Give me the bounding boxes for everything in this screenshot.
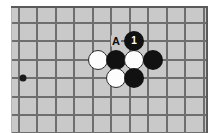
point-label-a: A bbox=[111, 36, 121, 47]
grid-line-horizontal-5 bbox=[11, 114, 208, 116]
grid-line-horizontal-1 bbox=[11, 40, 208, 42]
board-frame-left bbox=[11, 6, 12, 133]
go-diagram-figure: 1A bbox=[0, 0, 220, 133]
board-frame-right bbox=[206, 6, 208, 133]
grid-line-horizontal-4 bbox=[11, 96, 208, 98]
black-stone[interactable] bbox=[106, 50, 126, 70]
stone-move-number: 1 bbox=[131, 36, 137, 46]
grid-line-horizontal-0 bbox=[11, 22, 208, 24]
black-stone[interactable] bbox=[143, 50, 163, 70]
star-point-0 bbox=[20, 75, 27, 82]
white-stone[interactable] bbox=[106, 68, 126, 88]
black-stone-move-1[interactable]: 1 bbox=[124, 31, 144, 51]
grid-line-horizontal-6 bbox=[11, 132, 208, 133]
go-board[interactable]: 1A bbox=[11, 6, 208, 133]
board-frame-top bbox=[11, 6, 208, 8]
white-stone[interactable] bbox=[124, 50, 144, 70]
white-stone[interactable] bbox=[88, 50, 108, 70]
black-stone[interactable] bbox=[124, 68, 144, 88]
